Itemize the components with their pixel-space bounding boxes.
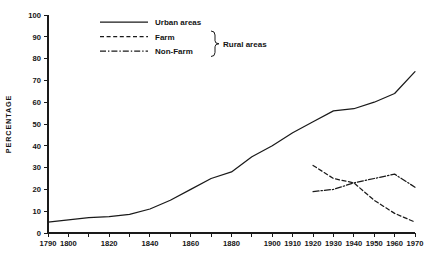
legend-label: Non-Farm <box>155 47 193 56</box>
y-tick-label: 20 <box>33 185 41 194</box>
y-tick-label: 40 <box>33 142 41 151</box>
x-tick-label: 1790 <box>40 239 57 248</box>
x-tick-label: 1940 <box>345 239 362 248</box>
y-tick-label: 80 <box>33 54 41 63</box>
x-axis-group: 1790180018201840186018801900191019201930… <box>40 233 424 248</box>
y-tick-label: 50 <box>33 120 41 129</box>
x-tick-label: 1880 <box>223 239 240 248</box>
y-tick-label: 100 <box>28 11 41 20</box>
legend-group-brace <box>211 31 219 57</box>
legend-label: Urban areas <box>155 18 202 27</box>
chart-legend: Urban areasFarmNon-FarmRural areas <box>100 18 267 57</box>
x-tick-label: 1950 <box>366 239 383 248</box>
y-tick-label: 10 <box>33 207 41 216</box>
y-tick-label: 90 <box>33 33 41 42</box>
chart-container: 0102030405060708090100 17901800182018401… <box>0 0 436 255</box>
y-tick-label: 30 <box>33 163 41 172</box>
y-tick-label: 70 <box>33 76 41 85</box>
x-tick-label: 1970 <box>407 239 424 248</box>
y-axis-group: 0102030405060708090100 <box>28 11 48 238</box>
x-tick-label: 1920 <box>305 239 322 248</box>
x-tick-label: 1820 <box>101 239 118 248</box>
y-tick-label: 60 <box>33 98 41 107</box>
y-tick-label: 0 <box>37 229 41 238</box>
series-line-urban-areas <box>48 72 415 222</box>
y-axis-title: PERCENTAGE <box>4 95 13 153</box>
percentage-line-chart: 0102030405060708090100 17901800182018401… <box>0 0 436 255</box>
legend-group-label: Rural areas <box>223 40 267 49</box>
x-tick-label: 1930 <box>325 239 342 248</box>
series-line-non-farm <box>313 174 415 191</box>
x-tick-label: 1800 <box>60 239 77 248</box>
series-line-farm <box>313 165 415 222</box>
x-tick-label: 1840 <box>141 239 158 248</box>
x-tick-label: 1860 <box>182 239 199 248</box>
x-tick-label: 1960 <box>386 239 403 248</box>
y-axis-ticks: 0102030405060708090100 <box>28 11 48 238</box>
x-axis-ticks: 1790180018201840186018801900191019201930… <box>40 233 424 248</box>
legend-label: Farm <box>155 33 175 42</box>
data-series-group <box>48 72 415 222</box>
x-tick-label: 1900 <box>264 239 281 248</box>
x-tick-label: 1910 <box>284 239 301 248</box>
